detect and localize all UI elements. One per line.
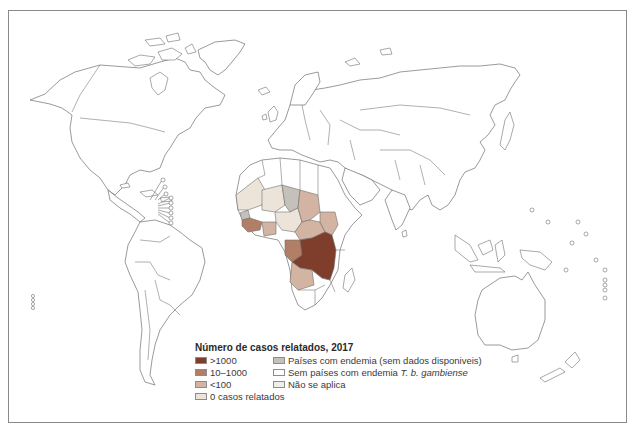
swatch-under-100 [195,381,207,388]
legend-label: >1000 [210,355,237,366]
legend-label: 0 casos relatados [210,391,284,402]
legend-item-endemic-no-data: Países com endemia (sem dados disponivei… [273,355,482,366]
legend-item-zero: 0 casos relatados [195,391,273,402]
map-legend: Número de casos relatados, 2017 >1000 Pa… [195,342,482,402]
legend-item-non-endemic: Sem países com endemia T. b. gambiense [273,367,482,378]
swatch-over-1000 [195,357,207,364]
legend-label: Países com endemia (sem dados disponivei… [288,355,482,366]
legend-item-over-1000: >1000 [195,355,273,366]
pacific-west-islands [31,294,34,309]
swatch-not-applicable [273,381,285,388]
swatch-endemic-no-data [273,357,285,364]
legend-label: Sem países com endemia [288,367,398,378]
legend-item-10-1000: 10–1000 [195,367,273,378]
legend-label: 10–1000 [210,367,247,378]
legend-label-species: T. b. gambiense [400,367,467,378]
north-america [30,33,245,222]
legend-item-not-applicable: Não se aplica [273,379,482,390]
south-america [125,220,205,385]
swatch-non-endemic [273,369,285,376]
swatch-10-1000 [195,369,207,376]
legend-title: Número de casos relatados, 2017 [195,342,482,353]
swatch-zero [195,393,207,400]
legend-item-under-100: <100 [195,379,273,390]
legend-label: Não se aplica [288,379,346,390]
legend-label: <100 [210,379,231,390]
